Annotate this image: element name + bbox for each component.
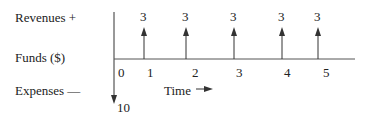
- time-arrowhead-icon: [204, 86, 213, 92]
- expense-amount-0: 10: [117, 101, 130, 114]
- time-tick-4: 4: [284, 66, 291, 79]
- revenue-amount-4: 3: [278, 10, 285, 23]
- revenues-label: Revenues +: [15, 11, 76, 24]
- time-tick-1: 1: [147, 66, 154, 79]
- revenue-amount-2: 3: [182, 10, 189, 23]
- time-axis-label: Time: [164, 84, 191, 97]
- time-tick-0: 0: [118, 66, 125, 79]
- revenue-amount-3: 3: [230, 10, 237, 23]
- arrowhead-up-icon: [183, 27, 189, 36]
- expenses-label: Expenses —: [15, 84, 80, 97]
- time-tick-2: 2: [192, 66, 199, 79]
- arrowhead-up-icon: [315, 27, 321, 36]
- time-tick-3: 3: [236, 66, 243, 79]
- arrowhead-up-icon: [279, 27, 285, 36]
- arrowhead-up-icon: [141, 27, 147, 36]
- time-tick-5: 5: [323, 66, 330, 79]
- arrowhead-up-icon: [231, 27, 237, 36]
- revenue-amount-1: 3: [140, 10, 147, 23]
- revenue-amount-5: 3: [314, 10, 321, 23]
- funds-label: Funds ($): [15, 51, 65, 64]
- revenue-arrows: [141, 27, 321, 59]
